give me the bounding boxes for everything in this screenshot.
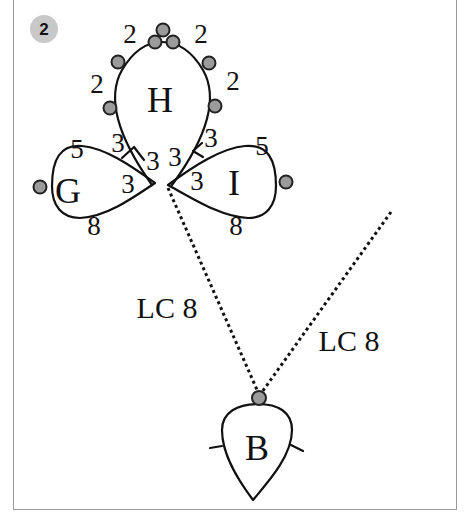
- count-label: 3: [204, 123, 218, 153]
- count-label: 3: [146, 146, 160, 176]
- count-label: 3: [168, 142, 182, 172]
- count-label: 5: [255, 131, 269, 161]
- picot-icon: [112, 56, 125, 69]
- picot-icon: [149, 36, 162, 49]
- chain-left-label: LC 8: [137, 291, 198, 324]
- count-label: 3: [190, 166, 204, 196]
- count-label: 5: [70, 134, 84, 164]
- count-label: 2: [90, 69, 104, 99]
- ring-h-label: H: [147, 80, 173, 120]
- count-label: 3: [111, 128, 125, 158]
- picot-icon: [209, 100, 222, 113]
- picot-icon: [167, 36, 180, 49]
- ring-i: I 5 3 8: [168, 131, 293, 241]
- count-label: 2: [123, 19, 137, 49]
- ring-g-label: G: [55, 171, 81, 211]
- picot-icon: [34, 181, 47, 194]
- picot-icon: [203, 57, 216, 70]
- count-label: 2: [194, 19, 208, 49]
- step-number: 2: [39, 20, 48, 39]
- ring-b-label: B: [245, 428, 269, 468]
- ring-i-label: I: [228, 163, 240, 203]
- picot-icon: [104, 102, 117, 115]
- count-label: 8: [87, 211, 101, 241]
- picot-icon: [252, 391, 266, 405]
- count-label: 8: [229, 211, 243, 241]
- chain-right-label: LC 8: [319, 324, 380, 357]
- picot-icon: [157, 24, 170, 37]
- picot-icon: [280, 176, 293, 189]
- count-label: 3: [121, 169, 135, 199]
- count-label: 2: [226, 66, 240, 96]
- chain-right: LC 8: [262, 212, 391, 392]
- step-badge: 2: [30, 15, 58, 43]
- ring-h: H 2 2 2 2 3 3 3 3: [90, 19, 240, 185]
- tatting-diagram: 2 H 2 2 2 2 3 3 3 3 G 5 3 8 I: [0, 0, 465, 525]
- ring-b: B: [210, 391, 303, 500]
